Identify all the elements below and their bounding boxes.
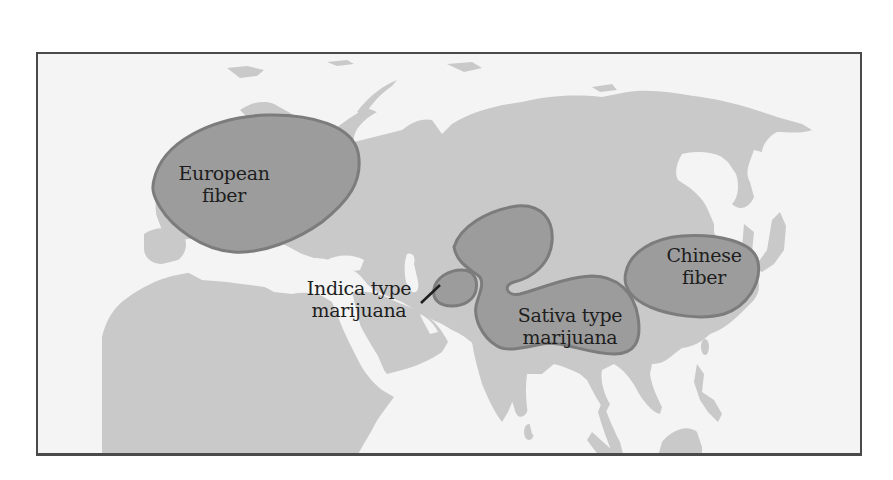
label-sativa-line2: marijuana [505,326,635,348]
borneo-landmass [657,428,702,456]
label-chinese-fiber: Chinese fiber [654,244,754,288]
label-european-fiber: European fiber [164,162,284,206]
label-european-fiber-line2: fiber [164,184,284,206]
novaya-zemlya-landmass [357,80,397,116]
taiwan-landmass [701,339,709,355]
label-chinese-line2: fiber [654,266,754,288]
label-sativa-type-marijuana: Sativa type marijuana [505,304,635,348]
label-indica-type-marijuana: Indica type marijuana [294,277,424,321]
map-frame: European fiber Indica type marijuana Sat… [36,52,862,456]
label-indica-line2: marijuana [294,299,424,321]
arctic-islands-landmass [447,62,482,72]
black-sea [327,256,364,271]
philippines-landmass [694,364,722,422]
svalbard-landmass [227,66,264,78]
label-chinese-line1: Chinese [654,244,754,266]
label-indica-line1: Indica type [294,277,424,299]
label-european-fiber-line1: European [164,162,284,184]
bay-of-bengal [526,374,592,442]
label-sativa-line1: Sativa type [505,304,635,326]
severnaya-landmass [327,60,354,66]
iberia-landmass [144,228,186,264]
east-arctic-landmass [592,84,617,92]
